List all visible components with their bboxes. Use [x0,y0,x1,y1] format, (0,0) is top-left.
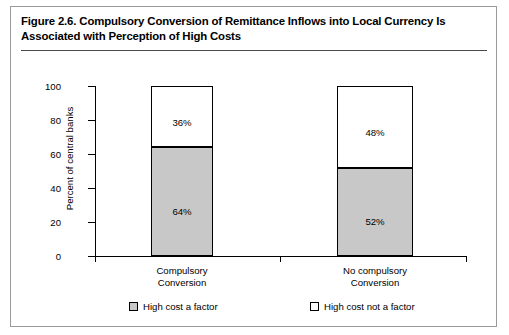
bar-segment-value: 64% [172,206,191,217]
figure-frame: Figure 2.6. Compulsory Conversion of Rem… [10,6,497,327]
bar-segment-high-cost-a-factor[interactable]: 64% [151,147,213,256]
y-axis-tick [88,120,95,121]
x-axis-tick [466,256,467,262]
legend-label: High cost not a factor [324,301,415,312]
x-axis-category-label-line: No compulsory [295,265,455,277]
chart-legend: High cost a factor High cost not a facto… [11,301,498,317]
legend-entry-high-cost-a-factor[interactable]: High cost a factor [129,301,218,312]
y-axis-title: Percent of central banks [64,74,75,244]
bar-segment-value: 36% [172,117,191,128]
x-axis-category-label-no-compulsory: No compulsory Conversion [295,265,455,289]
bar-segment-high-cost-a-factor[interactable]: 52% [337,168,413,256]
legend-label: High cost a factor [143,301,218,312]
y-axis-tick [88,256,95,257]
bar-segment-value: 48% [365,127,384,138]
x-axis-category-label-line: Conversion [295,277,455,289]
y-axis-tick-label: 100 [21,82,61,92]
legend-entry-high-cost-not-a-factor[interactable]: High cost not a factor [310,301,415,312]
y-axis-line [95,86,96,257]
y-axis-tick [88,222,95,223]
bar-segment-high-cost-not-a-factor[interactable]: 36% [151,86,213,147]
x-axis-tick [95,256,96,262]
x-axis-category-label-compulsory: Compulsory Conversion [102,265,262,289]
y-axis-tick-label: 0 [21,252,61,262]
bar-segment-high-cost-not-a-factor[interactable]: 48% [337,86,413,168]
x-axis-tick [280,256,281,262]
bar-segment-value: 52% [365,216,384,227]
y-axis-tick-label: 60 [21,150,61,160]
legend-swatch-icon [310,302,319,311]
y-axis-tick [88,154,95,155]
y-axis-tick-label: 80 [21,116,61,126]
y-axis-tick [88,188,95,189]
x-axis-category-label-line: Compulsory [102,265,262,277]
x-axis-category-label-line: Conversion [102,277,262,289]
y-axis-tick [88,86,95,87]
legend-swatch-icon [129,302,138,311]
chart-plot-area: Percent of central banks 100 80 60 40 20… [11,7,498,328]
y-axis-tick-label: 40 [21,184,61,194]
bar-compulsory-conversion[interactable]: 36% 64% [151,86,213,256]
y-axis-tick-label: 20 [21,218,61,228]
bar-no-compulsory-conversion[interactable]: 48% 52% [337,86,413,256]
